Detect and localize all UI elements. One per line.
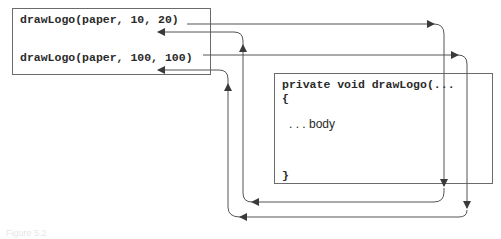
arrow-return-2-left (158, 70, 228, 84)
arrow-return-1 (252, 188, 444, 202)
arrow-return-2 (240, 210, 467, 217)
flow-arrows (0, 0, 501, 239)
figure-caption: Figure 5.2 (6, 228, 47, 238)
arrow-return-1-left (158, 32, 243, 45)
arrow-call-2-down (458, 55, 467, 208)
arrow-return-2-up (228, 84, 240, 217)
arrow-call-1-down (434, 24, 444, 186)
arrow-return-1-up (243, 45, 252, 202)
